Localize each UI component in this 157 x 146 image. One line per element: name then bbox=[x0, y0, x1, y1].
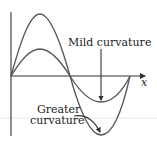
diagram-canvas: x Mild curvature Greater curvature bbox=[0, 0, 157, 146]
mild-curvature-label: Mild curvature bbox=[68, 36, 151, 49]
x-axis-label: x bbox=[141, 76, 148, 89]
curvature-diagram: x Mild curvature Greater curvature bbox=[0, 0, 157, 146]
